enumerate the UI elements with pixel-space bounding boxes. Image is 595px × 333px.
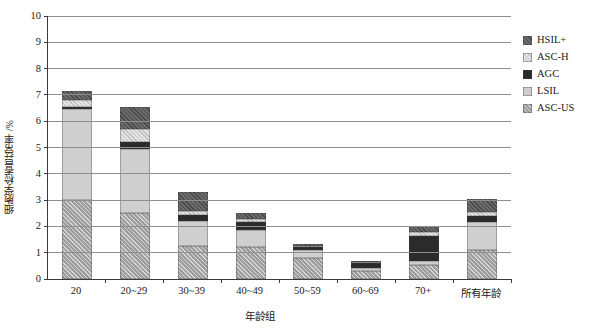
y-axis-tick-label: 2 (36, 221, 41, 232)
x-axis-tick (395, 279, 396, 283)
x-axis-title-text: 年龄组 (245, 308, 275, 323)
x-axis-tick (453, 279, 454, 283)
legend-swatch-icon (523, 104, 532, 113)
plot-area: 012345678910 (47, 16, 511, 280)
y-axis-tick (44, 226, 48, 227)
bar-segment-hsil- (236, 213, 266, 218)
bar-segment-hsil- (120, 107, 150, 129)
legend-swatch-icon (523, 87, 532, 96)
y-axis-tick (44, 173, 48, 174)
bar-segment-agc (62, 107, 92, 110)
bar-segment-hsil- (62, 91, 92, 100)
y-axis-tick-label: 1 (36, 247, 41, 258)
bar-segment-asc-h (62, 100, 92, 107)
bar-segment-agc (351, 263, 381, 268)
legend-item[interactable]: HSIL+ (523, 32, 591, 49)
gridline (48, 252, 511, 253)
y-axis-tick-label: 7 (36, 90, 41, 101)
x-axis-tick-label: 60~69 (352, 285, 379, 296)
legend-swatch-icon (523, 53, 532, 62)
bar-segment-asc-us (409, 265, 439, 279)
gridline (48, 226, 511, 227)
gridline (48, 147, 511, 148)
bar-segment-asc-h (178, 211, 208, 215)
x-axis-tick (337, 279, 338, 283)
bar-segment-asc-us (120, 213, 150, 279)
y-axis-tick (44, 94, 48, 95)
legend-item-label: LSIL (537, 86, 559, 97)
bar-segment-asc-h (236, 219, 266, 223)
bar-segment-agc (293, 247, 323, 250)
y-axis-tick (44, 279, 48, 280)
bar-segment-asc-h (351, 262, 381, 263)
bar-segment-lsil (178, 221, 208, 246)
x-axis-tick-label: 20~29 (120, 285, 147, 296)
legend-swatch-icon (523, 70, 532, 79)
x-axis-tick-label: 30~39 (178, 285, 205, 296)
legend-item[interactable]: ASC-H (523, 49, 591, 66)
bar-segment-asc-us (293, 258, 323, 279)
y-axis-tick (44, 147, 48, 148)
y-axis-tick (44, 252, 48, 253)
y-axis-tick-label: 10 (31, 11, 42, 22)
y-axis-tick (44, 42, 48, 43)
y-axis-tick-label: 0 (36, 274, 41, 285)
gridline (48, 42, 511, 43)
x-axis-tick-label: 20 (71, 285, 82, 296)
bar-segment-asc-us (467, 250, 497, 279)
y-axis-tick (44, 16, 48, 17)
x-axis-tick (279, 279, 280, 283)
bar-segment-lsil (351, 268, 381, 271)
bar-segment-asc-h (293, 246, 323, 247)
bar-segment-lsil (120, 149, 150, 213)
x-axis-tick (105, 279, 106, 283)
bar-segment-hsil- (293, 244, 323, 247)
bar-segment-asc-h (409, 232, 439, 236)
x-axis-title: 年龄组 (0, 308, 595, 323)
bar-segment-hsil- (467, 199, 497, 212)
legend-item[interactable]: AGC (523, 66, 591, 83)
y-axis-tick (44, 121, 48, 122)
bar-segment-lsil (409, 261, 439, 265)
y-axis-tick (44, 200, 48, 201)
gridline (48, 200, 511, 201)
y-axis-tick-label: 3 (36, 195, 41, 206)
gridline (48, 121, 511, 122)
bar-segment-hsil- (351, 261, 381, 263)
y-axis-tick-label: 4 (36, 169, 41, 180)
bar-segment-asc-h (120, 129, 150, 142)
legend-item[interactable]: LSIL (523, 83, 591, 100)
legend-swatch-icon (523, 36, 532, 45)
bar-segment-hsil- (178, 192, 208, 210)
gridline (48, 16, 511, 17)
gridline (48, 68, 511, 69)
legend-item-label: AGC (537, 69, 559, 80)
legend-item-label: ASC-US (537, 103, 574, 114)
legend-item-label: ASC-H (537, 52, 569, 63)
y-axis-title-text: 细胞学检查异常率 /% (4, 120, 16, 214)
bar-segment-lsil (236, 230, 266, 247)
x-axis-tick (163, 279, 164, 283)
x-axis-tick-label: 所有年龄 (461, 285, 501, 300)
gridline (48, 173, 511, 174)
x-axis-tick-label: 40~49 (236, 285, 263, 296)
gridline (48, 94, 511, 95)
y-axis-tick-label: 5 (36, 142, 41, 153)
x-axis-tick-label: 50~59 (294, 285, 321, 296)
legend-item[interactable]: ASC-US (523, 100, 591, 117)
stacked-bar-chart: 细胞学检查异常率 /% 012345678910 2020~2930~3940~… (0, 0, 595, 333)
y-axis-tick-label: 6 (36, 116, 41, 127)
x-axis-tick-label: 70+ (415, 285, 431, 296)
y-axis-tick-label: 9 (36, 37, 41, 48)
legend-item-label: HSIL+ (537, 35, 566, 46)
bar-segment-asc-h (467, 212, 497, 216)
bar-segment-asc-us (62, 200, 92, 279)
bar-segment-lsil (62, 109, 92, 200)
bar-segment-asc-us (351, 271, 381, 279)
bar-segment-agc (178, 215, 208, 222)
bar-segment-agc (467, 216, 497, 223)
x-axis-tick (511, 279, 512, 283)
bar-segment-asc-us (178, 246, 208, 279)
bar-segment-agc (409, 236, 439, 261)
x-axis-tick (221, 279, 222, 283)
